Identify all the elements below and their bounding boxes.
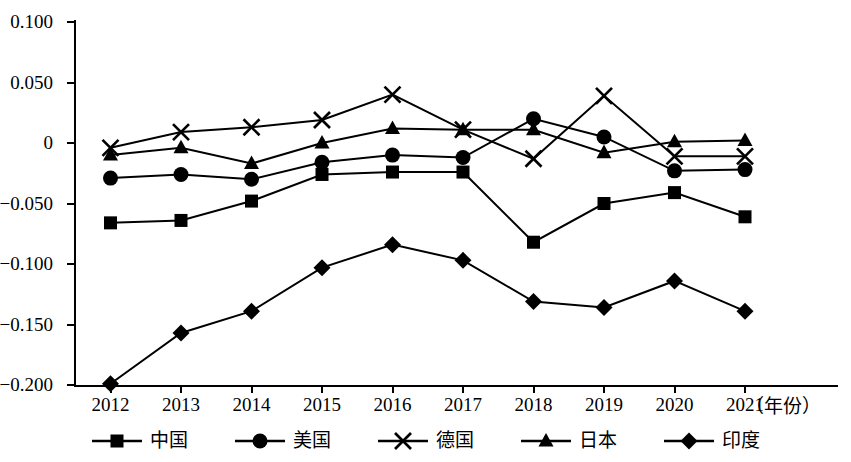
data-point-marker bbox=[596, 299, 613, 316]
circle-marker-icon bbox=[234, 430, 286, 452]
data-point-marker bbox=[457, 166, 470, 179]
data-point-marker bbox=[174, 167, 189, 182]
series-1 bbox=[104, 166, 752, 249]
data-point-marker bbox=[385, 87, 401, 103]
data-point-marker bbox=[738, 162, 753, 177]
data-point-marker bbox=[384, 236, 401, 253]
data-point-marker bbox=[315, 155, 330, 170]
data-point-marker bbox=[102, 375, 119, 392]
data-point-marker bbox=[668, 186, 681, 199]
data-point-marker bbox=[526, 151, 542, 167]
data-point-marker bbox=[667, 134, 682, 148]
diamond-marker-icon bbox=[663, 430, 715, 452]
chart-root: 0.1000.0500−0.050−0.100−0.150−0.200 2012… bbox=[0, 0, 851, 462]
legend-label: 德国 bbox=[436, 431, 474, 451]
data-point-marker bbox=[103, 171, 118, 186]
data-point-marker bbox=[386, 166, 399, 179]
data-point-marker bbox=[456, 150, 471, 165]
legend-item-3[interactable]: 德国 bbox=[377, 430, 474, 452]
data-point-marker bbox=[175, 214, 188, 227]
data-point-marker bbox=[666, 272, 683, 289]
series-line bbox=[111, 245, 746, 384]
data-point-marker bbox=[738, 133, 753, 147]
triangle-marker-icon bbox=[520, 430, 572, 452]
legend-item-2[interactable]: 美国 bbox=[234, 430, 331, 452]
data-point-marker bbox=[174, 140, 189, 154]
series-3 bbox=[103, 87, 754, 167]
legend-label: 美国 bbox=[293, 431, 331, 451]
square-marker-icon bbox=[91, 430, 143, 452]
data-point-marker bbox=[597, 129, 612, 144]
data-point-marker bbox=[243, 303, 260, 320]
chart-legend: 中国美国德国日本印度 bbox=[0, 430, 851, 452]
series-line bbox=[111, 119, 746, 180]
data-point-marker bbox=[316, 168, 329, 181]
data-point-marker bbox=[244, 172, 259, 187]
data-point-marker bbox=[527, 236, 540, 249]
series-line bbox=[111, 95, 746, 159]
legend-item-4[interactable]: 日本 bbox=[520, 430, 617, 452]
legend-label: 印度 bbox=[722, 431, 760, 451]
data-point-marker bbox=[314, 259, 331, 276]
data-point-marker bbox=[173, 324, 190, 341]
data-point-marker bbox=[737, 303, 754, 320]
data-point-marker bbox=[739, 210, 752, 223]
legend-label: 日本 bbox=[579, 431, 617, 451]
data-point-marker bbox=[455, 252, 472, 269]
data-point-marker bbox=[525, 293, 542, 310]
data-point-marker bbox=[385, 148, 400, 163]
legend-label: 中国 bbox=[150, 431, 188, 451]
series-layer bbox=[0, 0, 851, 462]
data-point-marker bbox=[104, 216, 117, 229]
data-point-marker bbox=[598, 197, 611, 210]
data-point-marker bbox=[667, 163, 682, 178]
legend-item-5[interactable]: 印度 bbox=[663, 430, 760, 452]
data-point-marker bbox=[245, 195, 258, 208]
legend-item-1[interactable]: 中国 bbox=[91, 430, 188, 452]
series-2 bbox=[103, 111, 753, 187]
cross-marker-icon bbox=[377, 430, 429, 452]
series-line bbox=[111, 172, 746, 242]
data-point-marker bbox=[385, 120, 400, 134]
data-point-marker bbox=[596, 88, 612, 104]
series-5 bbox=[102, 236, 754, 392]
